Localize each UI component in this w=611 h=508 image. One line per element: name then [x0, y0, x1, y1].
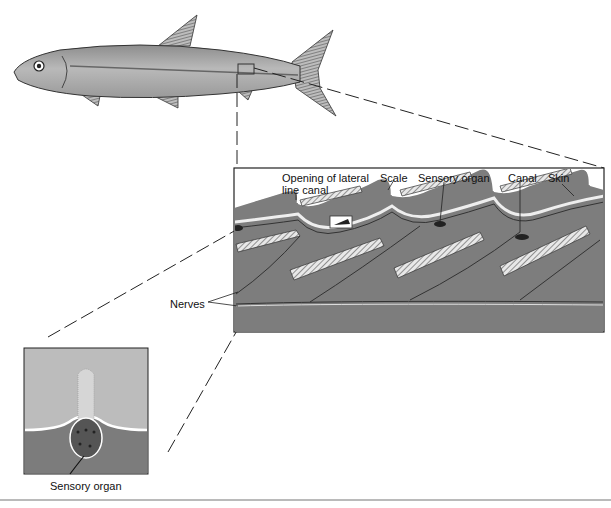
fish-body	[14, 45, 300, 98]
label-opening-line1: Opening of lateral	[282, 172, 369, 184]
label-opening-line2: line canal	[282, 184, 328, 196]
hair-cells	[70, 418, 102, 458]
cupula	[78, 369, 94, 420]
dorsal-fin	[158, 15, 197, 46]
fish-illustration	[14, 15, 336, 116]
label-skin: Skin	[548, 172, 569, 184]
inset-caption: Sensory organ	[50, 480, 122, 492]
diagram-canvas	[0, 0, 611, 508]
lateral-line-cross-section	[208, 167, 604, 332]
label-opening-of-lateral-line-canal: Opening of lateral line canal	[282, 172, 369, 196]
sensory-organ-inset	[24, 348, 148, 474]
label-nerves: Nerves	[170, 298, 205, 310]
label-scale: Scale	[380, 172, 408, 184]
label-canal: Canal	[508, 172, 537, 184]
label-sensory-organ: Sensory organ	[418, 172, 490, 184]
